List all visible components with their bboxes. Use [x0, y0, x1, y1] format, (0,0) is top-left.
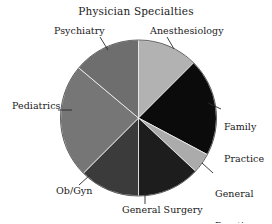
leader-line-obgyn — [79, 175, 90, 185]
slice-label-general-practice-line2: Practice — [215, 221, 255, 224]
leader-line-general-practice — [202, 163, 213, 173]
slice-label-psychiatry: Psychiatry — [54, 26, 105, 37]
slice-label-general-surgery: General Surgery — [122, 205, 203, 216]
pie-slices-group — [61, 40, 217, 196]
pie-chart-figure: Physician Specialties Anesthesiology Psy… — [0, 0, 272, 223]
slice-label-family-practice-line1: Family — [224, 122, 264, 133]
slice-label-anesthesiology: Anesthesiology — [150, 26, 224, 37]
slice-label-general-practice-line1: General — [215, 189, 255, 200]
slice-label-general-practice: General Practice — [215, 168, 255, 223]
slice-label-obgyn: Ob/Gyn — [56, 186, 92, 197]
slice-label-pediatrics: Pediatrics — [12, 101, 60, 112]
slice-label-family-practice-line2: Practice — [224, 154, 264, 165]
